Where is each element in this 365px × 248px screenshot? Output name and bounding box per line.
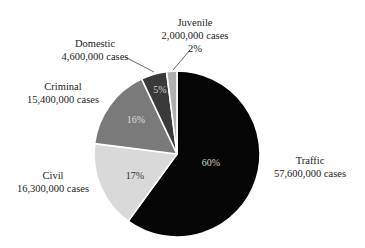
- label-traffic-name: Traffic: [265, 154, 355, 167]
- percent-traffic: 60%: [202, 157, 220, 168]
- label-domestic: Domestic 4,600,000 cases: [55, 37, 135, 63]
- label-juvenile: Juvenile 2,000,000 cases 2%: [158, 16, 232, 55]
- label-criminal-cases: 15,400,000 cases: [20, 93, 106, 106]
- label-civil: Civil 16,300,000 cases: [10, 169, 96, 195]
- label-juvenile-cases: 2,000,000 cases: [158, 29, 232, 42]
- label-domestic-cases: 4,600,000 cases: [55, 50, 135, 63]
- percent-civil: 17%: [126, 170, 144, 181]
- label-domestic-name: Domestic: [55, 37, 135, 50]
- label-civil-cases: 16,300,000 cases: [10, 182, 96, 195]
- label-criminal: Criminal 15,400,000 cases: [20, 80, 106, 106]
- percent-criminal: 16%: [127, 114, 145, 125]
- label-civil-name: Civil: [10, 169, 96, 182]
- label-traffic: Traffic 57,600,000 cases: [265, 154, 355, 180]
- label-juvenile-name: Juvenile: [158, 16, 232, 29]
- label-traffic-cases: 57,600,000 cases: [265, 167, 355, 180]
- pie-slices: [94, 71, 260, 237]
- label-juvenile-percent: 2%: [158, 42, 232, 55]
- label-criminal-name: Criminal: [20, 80, 106, 93]
- percent-domestic: 5%: [153, 84, 166, 95]
